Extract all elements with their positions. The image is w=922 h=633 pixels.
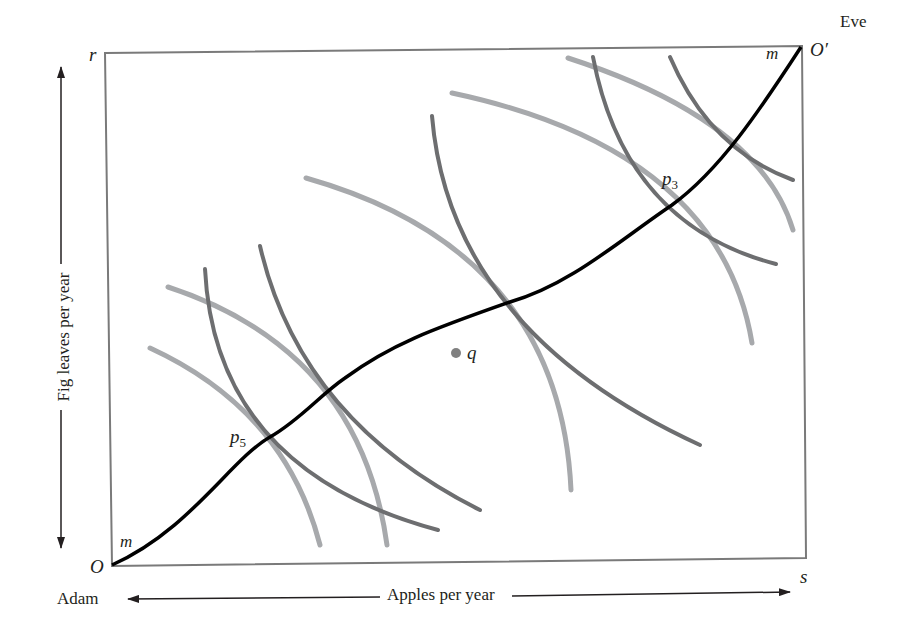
adam-curve-3 [432, 116, 700, 445]
adam-curve-1 [205, 269, 438, 530]
point-label-p5: p5 [230, 426, 246, 448]
eve-curve-2 [168, 287, 387, 545]
point-label-p5-base: p [230, 426, 240, 447]
point-label-q: q [467, 342, 477, 364]
contract-curve-label-m-high: m [766, 44, 778, 64]
consumer-label-adam: Adam [57, 589, 99, 609]
corner-label-r: r [89, 44, 96, 66]
point-label-p3: p3 [662, 168, 678, 190]
adam-curve-5 [670, 57, 793, 180]
diagram-canvas [0, 0, 922, 633]
contract-curve-label-m-low: m [120, 532, 132, 552]
point-label-p3-sub: 3 [672, 177, 679, 192]
y-axis-title: Fig leaves per year [54, 264, 74, 410]
adam-indifference-curves [205, 57, 793, 530]
origin-label-O: O [90, 556, 104, 578]
edgeworth-box-figure: r s O O′ m m Eve Adam Apples per year Fi… [0, 0, 922, 633]
corner-label-s: s [800, 566, 807, 588]
point-label-p5-sub: 5 [240, 435, 247, 450]
eve-indifference-curves [150, 58, 793, 545]
x-axis-title: Apples per year [384, 585, 498, 605]
consumer-label-eve: Eve [840, 12, 866, 32]
point-label-p3-base: p [662, 168, 672, 189]
origin-label-O-prime: O′ [810, 39, 828, 61]
point-q-marker [451, 348, 461, 358]
